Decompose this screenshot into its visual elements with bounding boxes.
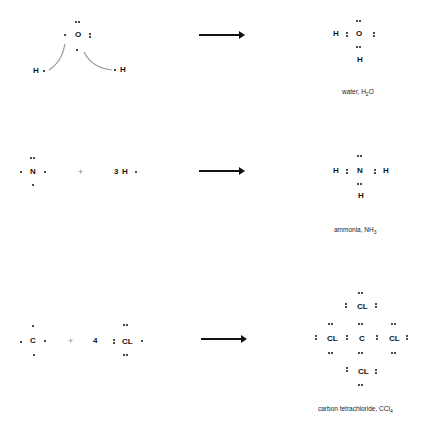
electron-dot	[135, 171, 137, 173]
chlorine-atom-bottom: CL	[358, 368, 369, 376]
lone-pair	[346, 367, 348, 372]
bond-pair	[346, 169, 348, 174]
chlorine-atom-right: CL	[389, 335, 400, 343]
electron-dot	[20, 171, 22, 173]
coefficient: 3	[114, 168, 118, 176]
hydrogen-atom: H	[333, 30, 339, 38]
hydrogen-atom: H	[358, 192, 364, 200]
carbon-atom: C	[359, 335, 365, 343]
lone-pair	[356, 20, 361, 22]
reaction-arrow-icon	[199, 34, 243, 36]
caption-ammonia: ammonia, NH3	[334, 226, 377, 235]
hydrogen-atom: H	[357, 56, 363, 64]
hydrogen-atom: H	[122, 168, 128, 176]
electron-dot	[44, 171, 46, 173]
electron-dot	[32, 184, 34, 186]
lone-pair	[113, 339, 115, 344]
coefficient: 4	[93, 337, 97, 345]
chlorine-atom-left: CL	[327, 335, 338, 343]
oxygen-atom: O	[356, 30, 362, 38]
lone-pair	[391, 323, 396, 325]
nitrogen-atom: N	[357, 167, 363, 175]
lone-pair	[30, 157, 35, 159]
bond-pair	[357, 183, 362, 185]
plus-sign: +	[68, 336, 73, 346]
lone-pair	[375, 303, 377, 308]
electron-dot	[20, 341, 22, 343]
lone-pair	[345, 303, 347, 308]
caption-carbon-tetrachloride: carbon tetrachloride, CCl4	[318, 405, 393, 414]
bond-pair	[346, 32, 348, 37]
electron-dot	[44, 340, 46, 342]
bond-pair	[358, 323, 363, 325]
lone-pair	[406, 335, 408, 340]
carbon-atom: C	[30, 337, 36, 345]
bond-pair	[358, 352, 363, 354]
lone-pair	[358, 292, 363, 294]
lone-pair	[123, 324, 128, 326]
plus-sign: +	[78, 167, 83, 177]
lone-pair	[123, 354, 128, 356]
electron-dot	[33, 354, 35, 356]
bond-pair	[376, 335, 378, 340]
reaction-arrow-icon	[201, 338, 245, 340]
bond-pair	[346, 335, 348, 340]
hydrogen-atom: H	[333, 167, 339, 175]
hydrogen-atom: H	[383, 167, 389, 175]
lone-pair	[328, 352, 333, 354]
lone-pair	[357, 155, 362, 157]
lone-pair	[391, 352, 396, 354]
chlorine-atom: CL	[122, 338, 133, 346]
electron-transfer-arrows-icon	[0, 0, 140, 80]
bond-pair	[374, 169, 376, 174]
lone-pair	[375, 369, 377, 374]
bond-pair	[356, 46, 361, 48]
chlorine-atom-top: CL	[357, 303, 368, 311]
lone-pair	[328, 323, 333, 325]
reaction-arrow-icon	[199, 170, 243, 172]
caption-water: water, H2O	[342, 88, 374, 97]
lone-pair	[373, 32, 375, 37]
nitrogen-atom: N	[30, 168, 36, 176]
lone-pair	[358, 384, 363, 386]
lone-pair	[315, 335, 317, 340]
electron-dot	[32, 325, 34, 327]
electron-dot	[141, 340, 143, 342]
